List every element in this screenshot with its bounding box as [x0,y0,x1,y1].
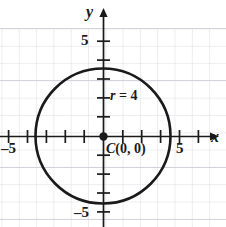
grid-background [0,28,226,227]
center-variable: C [106,141,115,156]
x-tick-label-5: 5 [176,141,184,156]
x-tick-label-neg5: –5 [1,141,16,156]
radius-annotation: r = 4 [110,89,137,103]
center-annotation: C(0, 0) [106,142,146,156]
y-axis-label: y [86,4,93,20]
coordinate-plane-canvas [0,0,226,227]
center-point-marker [99,132,107,140]
circle-graph-figure: y x 5 –5 –5 5 r = 4 C(0, 0) [0,0,226,227]
center-coordinates-text: (0, 0) [115,141,145,156]
y-tick-label-5: 5 [81,33,89,48]
y-tick-label-neg5: –5 [74,205,89,220]
x-axis-label: x [211,129,219,145]
radius-value-text: = 4 [115,88,137,103]
